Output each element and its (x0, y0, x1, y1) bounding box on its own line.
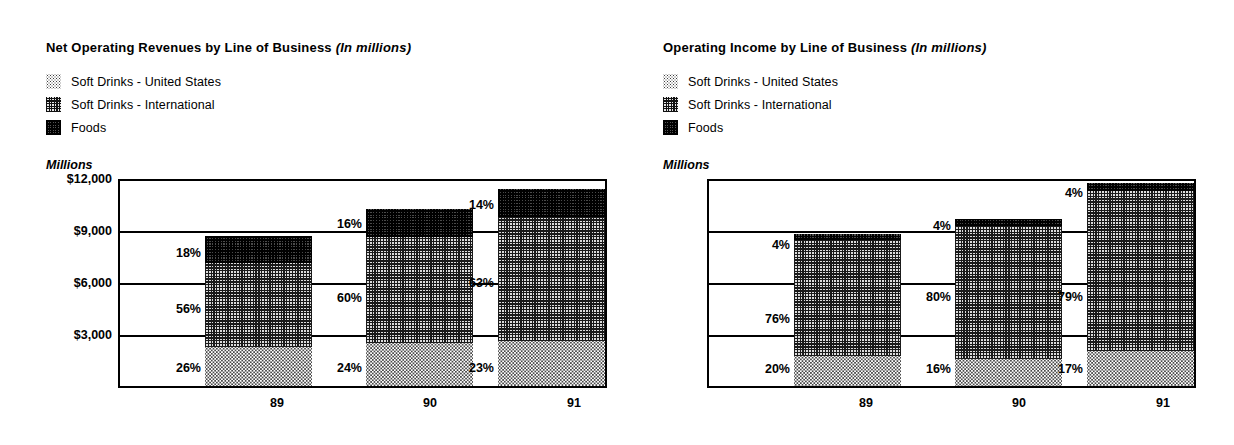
data-label-us-89: 20% (742, 362, 790, 376)
dark-crosshatch-swatch-icon (46, 120, 61, 135)
dark-crosshatch-swatch-icon (663, 120, 678, 135)
data-label-us-90: 16% (903, 362, 951, 376)
data-label-us-89: 26% (153, 361, 201, 375)
chart-panel-net-operating-revenues: Net Operating Revenues by Line of Busine… (0, 0, 617, 445)
legend-item-us: Soft Drinks - United States (663, 70, 838, 93)
bar-segment-us (498, 341, 605, 386)
bar-segment-foods (366, 209, 473, 237)
x-tick-label-91: 91 (567, 396, 581, 410)
legend-left: Soft Drinks - United States Soft Drinks … (46, 70, 221, 139)
bar-segment-international (1087, 191, 1194, 351)
data-label-us-90: 24% (314, 361, 362, 375)
legend-item-foods: Foods (663, 116, 838, 139)
bar-91 (1087, 183, 1194, 386)
legend-item-international: Soft Drinks - International (46, 93, 221, 116)
x-tick-label-91: 91 (1156, 396, 1170, 410)
y-axis-units-right: Millions (663, 158, 710, 172)
bar-segment-foods (498, 189, 605, 217)
legend-label-us: Soft Drinks - United States (688, 75, 838, 89)
data-label-foods-91: 14% (446, 198, 494, 212)
bar-segment-foods (1087, 183, 1194, 191)
data-label-us-91: 23% (446, 361, 494, 375)
medium-crosshatch-swatch-icon (46, 97, 61, 112)
bar-segment-us (794, 356, 901, 386)
legend-item-us: Soft Drinks - United States (46, 70, 221, 93)
y-tick-label: $9,000 (74, 224, 112, 238)
data-label-international-90: 60% (314, 291, 362, 305)
y-tick-label: $6,000 (74, 276, 112, 290)
data-label-foods-89: 18% (153, 246, 201, 260)
chart-title-units: (In millions) (911, 40, 987, 55)
bar-89 (794, 234, 901, 386)
legend-label-foods: Foods (71, 121, 106, 135)
legend-right: Soft Drinks - United States Soft Drinks … (663, 70, 838, 139)
plot-area-right: 4% 76% 20% 4% 80% 16% 4% 79% 17% (707, 179, 1196, 388)
data-label-foods-90: 16% (314, 217, 362, 231)
bar-segment-international (794, 240, 901, 356)
bar-90 (366, 209, 473, 386)
data-label-international-91: 79% (1035, 290, 1083, 304)
bar-segment-international (205, 263, 312, 347)
light-dotted-swatch-icon (663, 74, 678, 89)
plot-area-left: 18% 56% 26% 16% 60% 24% 14% 63% 23% (118, 179, 607, 388)
y-axis-units-left: Millions (46, 158, 93, 172)
chart-title-units: (In millions) (336, 40, 412, 55)
legend-item-international: Soft Drinks - International (663, 93, 838, 116)
y-tick-label: $3,000 (74, 328, 112, 342)
page-title-left: Net Operating Revenues by Line of Busine… (46, 40, 411, 55)
data-label-foods-91: 4% (1035, 186, 1083, 200)
bar-segment-us (1087, 351, 1194, 386)
x-tick-label-89: 89 (270, 396, 284, 410)
data-label-foods-89: 4% (742, 238, 790, 252)
data-label-international-89: 76% (742, 312, 790, 326)
legend-label-international: Soft Drinks - International (688, 98, 832, 112)
legend-item-foods: Foods (46, 116, 221, 139)
chart-panel-operating-income: Operating Income by Line of Business (In… (617, 0, 1234, 445)
data-label-us-91: 17% (1035, 362, 1083, 376)
page-title-right: Operating Income by Line of Business (In… (663, 40, 987, 55)
bar-91 (498, 189, 605, 386)
chart-title-text: Operating Income by Line of Business (663, 40, 907, 55)
light-dotted-swatch-icon (46, 74, 61, 89)
data-label-international-90: 80% (903, 290, 951, 304)
bar-segment-foods (955, 219, 1062, 226)
x-tick-label-90: 90 (1012, 396, 1026, 410)
legend-label-foods: Foods (688, 121, 723, 135)
data-label-international-89: 56% (153, 302, 201, 316)
data-label-international-91: 63% (446, 276, 494, 290)
data-label-foods-90: 4% (903, 219, 951, 233)
bar-segment-us (205, 347, 312, 386)
bar-segment-foods (205, 236, 312, 263)
legend-label-us: Soft Drinks - United States (71, 75, 221, 89)
bar-segment-international (366, 237, 473, 343)
medium-crosshatch-swatch-icon (663, 97, 678, 112)
y-tick-label: $12,000 (67, 172, 112, 186)
x-tick-label-90: 90 (423, 396, 437, 410)
chart-title-text: Net Operating Revenues by Line of Busine… (46, 40, 332, 55)
bar-segment-international (498, 217, 605, 341)
y-axis-ticks-left: $12,000 $9,000 $6,000 $3,000 (40, 179, 112, 388)
legend-label-international: Soft Drinks - International (71, 98, 215, 112)
x-tick-label-89: 89 (859, 396, 873, 410)
bar-89 (205, 236, 312, 386)
